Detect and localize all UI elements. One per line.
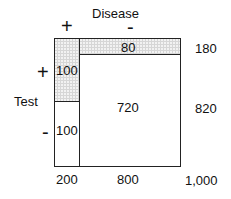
grand-total: 1,000 [185, 174, 218, 187]
left-column-divider [54, 101, 80, 102]
row-total-test-negative: 820 [195, 102, 217, 115]
col-sign-positive: + [61, 16, 73, 36]
col-total-disease-negative: 800 [117, 173, 139, 186]
cell-true-negative: 720 [117, 101, 139, 114]
cell-false-negative: 100 [56, 124, 78, 137]
row-total-test-positive: 180 [195, 42, 217, 55]
row-title: Test [14, 95, 38, 108]
cell-true-positive: 100 [56, 64, 78, 77]
col-total-disease-positive: 200 [56, 173, 78, 186]
cell-false-positive: 80 [121, 41, 135, 54]
row-sign-negative: - [42, 122, 49, 142]
column-divider [79, 38, 80, 167]
col-sign-negative: - [127, 17, 134, 37]
row-sign-positive: + [37, 62, 49, 82]
